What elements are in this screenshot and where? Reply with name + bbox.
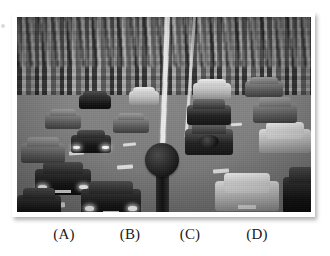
headlight-icon [102,146,108,149]
car-roof [77,130,106,138]
choice-label-b: (B) [110,224,150,244]
car-roof [50,109,76,116]
car-roof [193,99,225,108]
car [81,189,141,212]
car-roof [43,162,83,174]
spare-tyre [199,135,218,149]
suv-with-spare-tyre [185,129,233,155]
headlight-icon [128,206,138,210]
car [129,91,159,105]
licence-plate [103,211,120,212]
licence-plate [55,190,71,193]
car-roof [133,87,155,93]
choice-label-a: (A) [44,224,84,244]
headlight-icon [73,146,79,149]
car [113,117,149,133]
choice-label-c: (C) [170,224,210,244]
car [79,95,111,109]
choice-label-d: (D) [237,224,277,244]
scan-artifact-mark [1,24,5,28]
car-roof [289,167,311,184]
car-roof [89,181,132,194]
car-roof [27,137,59,146]
estate-car-foreground [215,181,279,211]
figure-container: (A) (B) (C) (D) [0,0,330,256]
headlight-icon [85,206,95,210]
car [259,129,311,153]
rear-window [267,130,302,138]
choice-labels-row: (A) (B) (C) (D) [0,224,330,248]
rear-window [225,183,269,193]
traffic-jam-photo [17,17,311,212]
car [45,113,81,129]
car [245,81,283,97]
photo-frame [12,12,315,217]
car-roof [198,79,225,86]
car [193,83,231,99]
car-roof [259,97,291,106]
round-traffic-sign [145,143,179,177]
car-roof [118,113,144,120]
car [71,135,111,153]
licence-plate [238,205,256,209]
car [21,143,65,163]
car [17,195,61,212]
car [187,105,231,125]
car [283,177,311,212]
car [253,103,297,123]
car-roof [83,91,106,97]
car-roof [23,188,55,199]
car-roof [250,77,277,84]
